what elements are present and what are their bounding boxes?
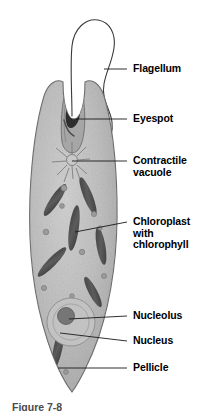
label-contractile-vacuole: Contractile vacuole — [133, 155, 187, 178]
label-flagellum: Flagellum — [133, 63, 181, 75]
label-chloroplast: Chloroplast with chlorophyll — [133, 216, 190, 251]
label-pellicle: Pellicle — [133, 362, 168, 374]
euglena-diagram: Flagellum Eyespot Contractile vacuole Ch… — [0, 0, 210, 411]
figure-caption: Figure 7-8 — [12, 401, 62, 411]
label-nucleus: Nucleus — [133, 335, 173, 347]
label-layer: Flagellum Eyespot Contractile vacuole Ch… — [0, 0, 210, 411]
label-eyespot: Eyespot — [133, 113, 173, 125]
label-nucleolus: Nucleolus — [133, 310, 182, 322]
